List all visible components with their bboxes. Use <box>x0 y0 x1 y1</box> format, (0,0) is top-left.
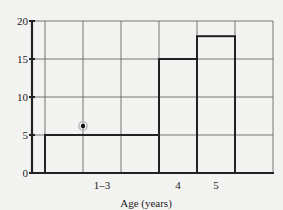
bars <box>45 36 235 173</box>
marker-dot-icon <box>81 124 85 128</box>
x-tick-label: 1–3 <box>94 179 111 191</box>
histogram-bar <box>45 135 159 173</box>
y-tick-label: 10 <box>17 91 29 103</box>
y-tick-label: 15 <box>17 53 29 65</box>
y-tick-label: 0 <box>23 167 29 179</box>
histogram-chart: 05101520 1–3 4 5 Age (years) <box>0 0 283 210</box>
y-tick-label: 5 <box>23 129 29 141</box>
grid-lines <box>32 21 273 173</box>
x-axis-title: Age (years) <box>120 197 172 210</box>
x-tick-label: 5 <box>213 179 219 191</box>
x-axis-tick-labels: 1–3 4 5 <box>94 179 220 191</box>
y-tick-label: 20 <box>17 15 29 27</box>
histogram-bar <box>159 59 197 173</box>
x-tick-label: 4 <box>175 179 181 191</box>
histogram-bar <box>197 36 235 173</box>
